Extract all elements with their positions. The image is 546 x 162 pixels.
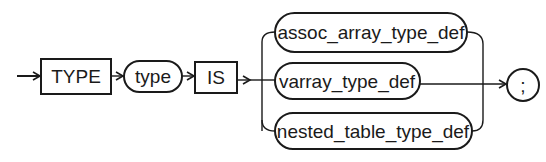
branch-split-line (262, 32, 275, 131)
nonterminal-varray-label: varray_type_def (279, 71, 416, 93)
keyword-type-label: TYPE (51, 66, 101, 87)
nonterminal-assoc-label: assoc_array_type_def (278, 22, 466, 44)
keyword-is-node: IS (195, 62, 237, 93)
keyword-is-label: IS (207, 67, 225, 88)
terminal-semicolon-label: ; (520, 75, 525, 96)
keyword-type-node: TYPE (41, 59, 111, 94)
nonterminal-nested-table-node: nested_table_type_def (275, 113, 472, 149)
branch-merge-line (467, 32, 483, 131)
syntax-diagram: TYPE type IS assoc_array_type_def varray… (0, 0, 546, 162)
nonterminal-nested-label: nested_table_type_def (277, 121, 470, 143)
nonterminal-type-label: type (135, 66, 171, 87)
branch-line (262, 120, 275, 131)
nonterminal-type-node: type (124, 61, 182, 92)
nonterminal-varray-node: varray_type_def (275, 63, 420, 99)
nonterminal-assoc-array-node: assoc_array_type_def (275, 13, 467, 52)
terminal-semicolon-node: ; (507, 69, 539, 101)
